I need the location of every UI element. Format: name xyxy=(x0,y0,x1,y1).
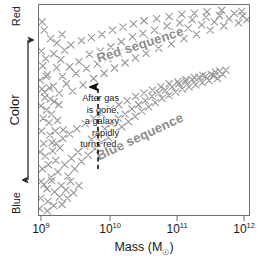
scatter-marker xyxy=(206,77,213,84)
scatter-marker xyxy=(86,51,93,58)
scatter-marker xyxy=(78,158,85,165)
scatter-marker xyxy=(76,182,83,189)
scatter-marker xyxy=(71,166,78,173)
scatter-marker xyxy=(61,161,68,168)
x-axis-tick-label: 1012 xyxy=(233,222,255,236)
scatter-marker xyxy=(59,201,66,208)
scatter-marker xyxy=(39,48,45,55)
scatter-marker xyxy=(50,50,57,57)
x-axis-ticks xyxy=(38,216,250,223)
scatter-marker xyxy=(56,194,63,201)
scatter-marker xyxy=(191,10,198,17)
scatter-marker xyxy=(68,155,75,162)
scatter-marker xyxy=(122,59,129,66)
scatter-marker xyxy=(42,153,49,160)
scatter-marker xyxy=(130,21,137,28)
x-axis-tick-label: 1010 xyxy=(99,222,121,236)
scatter-marker xyxy=(132,93,139,100)
scatter-marker xyxy=(132,55,139,62)
scatter-marker xyxy=(142,97,149,104)
scatter-marker xyxy=(223,67,230,74)
scatter-marker xyxy=(214,75,221,82)
scatter-marker xyxy=(59,73,66,80)
scatter-marker xyxy=(44,185,51,192)
scatter-marker xyxy=(39,86,45,93)
scatter-marker xyxy=(124,97,131,104)
scatter-marker xyxy=(88,34,95,41)
scatter-marker xyxy=(219,71,226,78)
scatter-marker xyxy=(111,65,118,72)
scatter-marker xyxy=(189,16,196,23)
x-axis-title: Mass (M☉) xyxy=(38,240,250,254)
scatter-marker xyxy=(244,16,249,23)
scatter-marker xyxy=(68,42,75,49)
scatter-marker xyxy=(109,27,116,34)
scatter-marker xyxy=(44,208,51,215)
galaxy-color-mass-figure: Red Blue Color Red sequence Blue sequenc… xyxy=(0,0,270,261)
scatter-marker xyxy=(174,78,181,85)
scatter-marker xyxy=(83,65,90,72)
scatter-marker xyxy=(125,118,132,125)
scatter-marker xyxy=(149,93,156,100)
scatter-marker xyxy=(238,8,245,15)
scatter-marker xyxy=(198,22,205,29)
scatter-marker xyxy=(39,19,45,26)
scatter-marker xyxy=(39,178,44,185)
scatter-marker xyxy=(45,198,52,205)
scatter-marker xyxy=(45,161,52,168)
scatter-marker xyxy=(122,111,129,118)
scatter-marker xyxy=(135,101,142,108)
y-axis-title: Color xyxy=(7,94,22,125)
scatter-marker xyxy=(73,70,80,77)
scatter-marker xyxy=(78,37,85,44)
scatter-marker xyxy=(207,27,214,34)
scatter-marker xyxy=(235,20,242,27)
x-axis-tick-label: 109 xyxy=(32,222,50,236)
x-axis-tick-label: 1011 xyxy=(166,222,187,236)
scatter-marker xyxy=(76,58,83,65)
scatter-marker xyxy=(166,13,173,20)
y-axis: Red Blue Color xyxy=(4,4,36,216)
scatter-marker xyxy=(231,10,238,17)
color-direction-arrow-icon xyxy=(22,30,34,190)
y-axis-bottom-label: Blue xyxy=(10,192,22,214)
scatter-marker xyxy=(129,106,136,113)
scatter-marker xyxy=(179,11,186,18)
scatter-marker xyxy=(53,64,60,71)
scatter-marker xyxy=(141,90,148,97)
scatter-marker xyxy=(47,35,54,42)
x-axis-title-suffix: ) xyxy=(169,240,173,254)
scatter-marker xyxy=(120,24,127,31)
scatter-marker xyxy=(58,56,65,63)
scatter-marker xyxy=(66,63,73,70)
transition-dashed-arrow-icon xyxy=(89,73,113,171)
scatter-marker xyxy=(132,113,139,120)
x-axis-title-prefix: Mass (M xyxy=(114,240,162,254)
scatter-marker xyxy=(118,124,125,131)
scatter-marker xyxy=(54,40,61,47)
plot-area: Red sequence Blue sequence After gas is … xyxy=(38,4,250,216)
scatter-marker xyxy=(40,63,47,70)
scatter-marker xyxy=(39,166,46,173)
scatter-marker xyxy=(70,190,77,197)
scatter-marker xyxy=(153,15,160,22)
scatter-marker xyxy=(63,80,70,87)
scatter-marker xyxy=(216,12,223,19)
scatter-marker xyxy=(99,31,106,38)
scatter-marker xyxy=(149,87,156,94)
scatter-marker xyxy=(145,104,152,111)
scatter-marker xyxy=(80,82,87,89)
scatter-marker xyxy=(39,195,44,202)
scatter-marker xyxy=(211,19,218,26)
scatter-marker xyxy=(221,23,228,30)
scatter-marker xyxy=(55,169,62,176)
scatter-marker xyxy=(152,99,159,106)
y-axis-top-label: Red xyxy=(10,6,22,26)
scatter-marker xyxy=(210,72,217,79)
scatter-marker xyxy=(185,25,192,32)
scatter-marker xyxy=(59,31,66,38)
scatter-marker xyxy=(204,8,211,15)
scatter-marker xyxy=(50,202,57,209)
scatter-marker xyxy=(42,55,49,62)
scatter-marker xyxy=(41,27,48,34)
